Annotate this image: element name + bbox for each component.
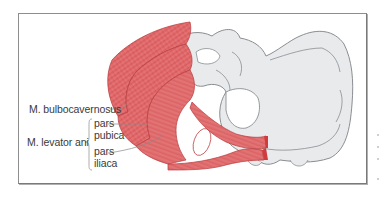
label-pars-pubica-line1: pars [94,118,114,129]
label-m-levator-ani: M. levator ani [27,137,89,148]
edge-mark [377,178,379,180]
edge-mark [377,158,379,160]
label-pars-iliaca-line2: iliaca [94,158,117,169]
label-m-bulbocavernosus: M. bulbocavernosus [29,104,121,115]
pelvic-floor-illustration [0,0,381,197]
edge-mark [377,134,379,136]
edge-mark [377,146,379,148]
label-pars-iliaca-line1: pars [94,146,114,157]
label-pars-pubica-line2: pubica [94,130,124,141]
